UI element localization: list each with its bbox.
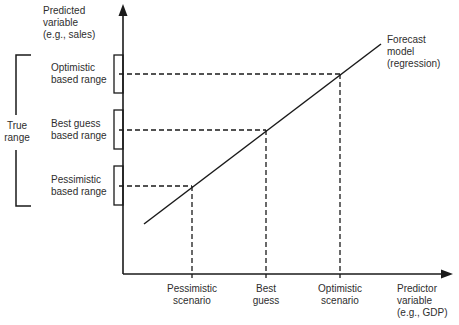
model-label-line1: Forecast <box>387 34 440 46</box>
optimistic-scenario-line1: Optimistic <box>310 283 370 295</box>
forecast-model-line <box>144 44 381 224</box>
optimistic-scenario-line2: scenario <box>310 295 370 307</box>
y-axis-label-line1: Predicted <box>43 5 95 17</box>
pessimistic-range-line2: based range <box>51 186 107 198</box>
best-guess-scenario-line2: guess <box>241 295 291 307</box>
y-axis-label-line3: (e.g., sales) <box>43 29 95 41</box>
best-guess-range-line1: Best guess <box>51 118 107 130</box>
model-label-line2: model <box>387 46 440 58</box>
x-axis-label: Predictor variable (e.g., GDP) <box>397 283 448 319</box>
pessimistic-scenario-line1: Pessimistic <box>162 283 222 295</box>
x-axis-label-line2: variable <box>397 295 448 307</box>
y-axis-label-line2: variable <box>43 17 95 29</box>
model-label-line3: (regression) <box>387 58 440 70</box>
best-guess-range-label: Best guess based range <box>51 118 107 142</box>
y-axis-label: Predicted variable (e.g., sales) <box>43 5 95 41</box>
pessimistic-range-label: Pessimistic based range <box>51 174 107 198</box>
true-range-bracket-top <box>16 55 31 115</box>
x-axis-label-line3: (e.g., GDP) <box>397 307 448 319</box>
optimistic-range-line2: based range <box>51 74 107 86</box>
true-range-label: True range <box>3 120 31 144</box>
true-range-line1: True <box>3 120 31 132</box>
x-axis-arrow-icon <box>441 270 453 279</box>
forecast-model-label: Forecast model (regression) <box>387 34 440 70</box>
pessimistic-range-line1: Pessimistic <box>51 174 107 186</box>
optimistic-range-line1: Optimistic <box>51 62 107 74</box>
true-range-bracket-bottom <box>16 150 31 206</box>
best-guess-scenario-label: Best guess <box>241 283 291 307</box>
best-guess-range-line2: based range <box>51 130 107 142</box>
optimistic-scenario-label: Optimistic scenario <box>310 283 370 307</box>
pessimistic-scenario-line2: scenario <box>162 295 222 307</box>
best-guess-scenario-line1: Best <box>241 283 291 295</box>
pessimistic-scenario-label: Pessimistic scenario <box>162 283 222 307</box>
x-axis-label-line1: Predictor <box>397 283 448 295</box>
y-axis-arrow-icon <box>119 4 128 16</box>
true-range-line2: range <box>3 132 31 144</box>
optimistic-range-label: Optimistic based range <box>51 62 107 86</box>
